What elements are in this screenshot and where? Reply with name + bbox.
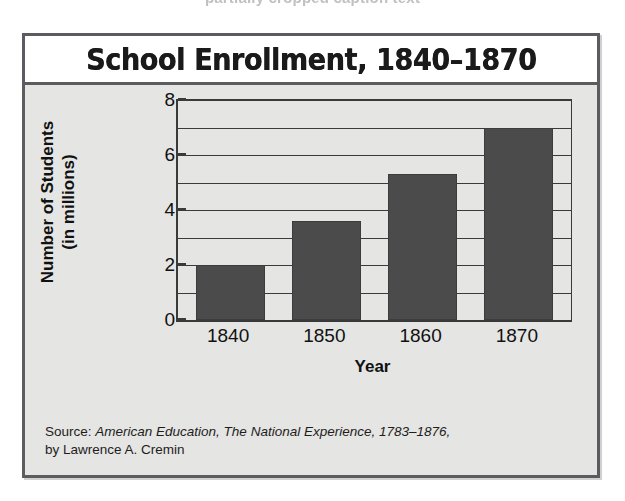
bar-series [178,100,571,320]
y-tick-label-4: 4 [164,200,175,219]
x-tick-label-1870: 1870 [482,325,551,347]
x-axis-title: Year [176,357,569,377]
y-tick-label-8: 8 [164,90,175,109]
y-axis-title-line1: Number of Students [38,121,57,283]
y-tick-label-2: 2 [164,255,175,274]
x-axis-tick-labels: 1840185018601870 [176,325,569,347]
cropped-top-caption: partially cropped caption text [0,0,625,14]
source-book-title: American Education, The National Experie… [95,424,450,439]
x-tick-label-1850: 1850 [290,325,359,347]
x-tick-label-1860: 1860 [386,325,455,347]
y-tick-label-0: 0 [164,310,175,329]
x-tick-label-1840: 1840 [194,325,263,347]
chart-plot-region: Number of Students (in millions) 02468 1… [25,85,597,375]
bar-1840 [196,265,265,320]
cropped-top-caption-text: partially cropped caption text [0,0,625,6]
bar-1870 [484,128,553,321]
plot-area [176,99,572,322]
bar-1860 [388,174,457,320]
source-author: by Lawrence A. Cremin [45,442,185,457]
chart-title-band: School Enrollment, 1840–1870 [25,36,597,85]
y-tick-label-6: 6 [164,145,175,164]
chart-figure: School Enrollment, 1840–1870 Number of S… [22,33,600,478]
source-prefix: Source: [45,424,92,439]
source-note: Source: American Education, The National… [45,423,577,459]
y-axis-title-line2: (in millions) [58,97,79,307]
bar-1850 [292,221,361,320]
y-axis-tick-labels: 02468 [145,85,175,375]
y-axis-title: Number of Students (in millions) [37,97,79,307]
chart-title: School Enrollment, 1840–1870 [86,42,536,77]
